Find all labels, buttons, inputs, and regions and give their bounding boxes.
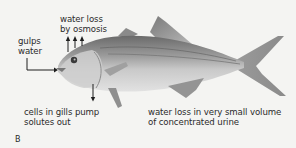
water-loss-osmosis-label: water loss by osmosis: [60, 14, 107, 34]
gulps-water-arrow: [27, 58, 58, 73]
gulps-water-label: gulps water: [18, 36, 42, 56]
gills-pump-label: cells in gills pump solutes out: [24, 107, 99, 127]
panel-letter: B: [15, 135, 20, 145]
fish-osmoregulation-diagram: gulps water water loss by osmosis cells …: [0, 0, 296, 148]
urine-label: water loss in very small volume of conce…: [148, 107, 281, 127]
